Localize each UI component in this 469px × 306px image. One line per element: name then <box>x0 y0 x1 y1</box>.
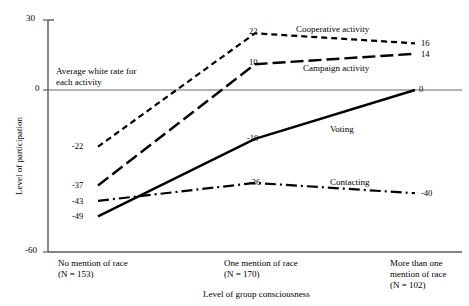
point-label-campaign-left: -37 <box>72 180 83 190</box>
y-tick-label-0: 0 <box>35 83 40 93</box>
average-white-rate-note-line1: Average white rate for <box>56 66 137 77</box>
point-label-campaign-right: 14 <box>421 49 430 59</box>
category-label-2b: mention of race <box>390 269 446 280</box>
point-label-contacting-left: -43 <box>72 196 83 206</box>
category-n-0: (N = 153) <box>58 269 94 280</box>
point-label-voting-mid: -19 <box>247 133 258 143</box>
point-label-campaign-mid: 10 <box>249 57 258 67</box>
category-n-2: (N = 102) <box>390 280 426 291</box>
x-axis-title: Level of group consciousness <box>203 289 310 299</box>
category-label-2a: More than one <box>390 258 442 269</box>
y-axis-title: Level of participation <box>14 117 24 195</box>
average-white-rate-note-line2: each activity <box>56 77 102 88</box>
series-label-campaign: Campaign activity <box>303 63 369 73</box>
point-label-cooperative-mid: 22 <box>249 26 258 36</box>
series-label-contacting: Contacting <box>330 177 370 187</box>
category-n-1: (N = 170) <box>224 269 260 280</box>
category-label-0: No mention of race <box>58 258 128 269</box>
series-line-voting <box>98 90 415 216</box>
category-label-1: One mention of race <box>224 258 298 269</box>
series-label-voting: Voting <box>330 124 354 134</box>
series-label-cooperative: Cooperative activity <box>296 24 369 34</box>
participation-line-chart: 30 0 -60 Level of participation Average … <box>0 0 469 306</box>
y-tick-label-30: 30 <box>26 13 35 23</box>
point-label-cooperative-right: 16 <box>421 38 430 48</box>
point-label-contacting-right: -40 <box>421 188 432 198</box>
series-line-campaign <box>98 54 415 186</box>
point-label-cooperative-left: -22 <box>72 141 83 151</box>
y-tick-label-minus60: -60 <box>25 245 37 255</box>
point-label-contacting-mid: -36 <box>249 177 260 187</box>
point-label-voting-right: 0 <box>419 84 423 94</box>
point-label-voting-left: -49 <box>72 211 83 221</box>
